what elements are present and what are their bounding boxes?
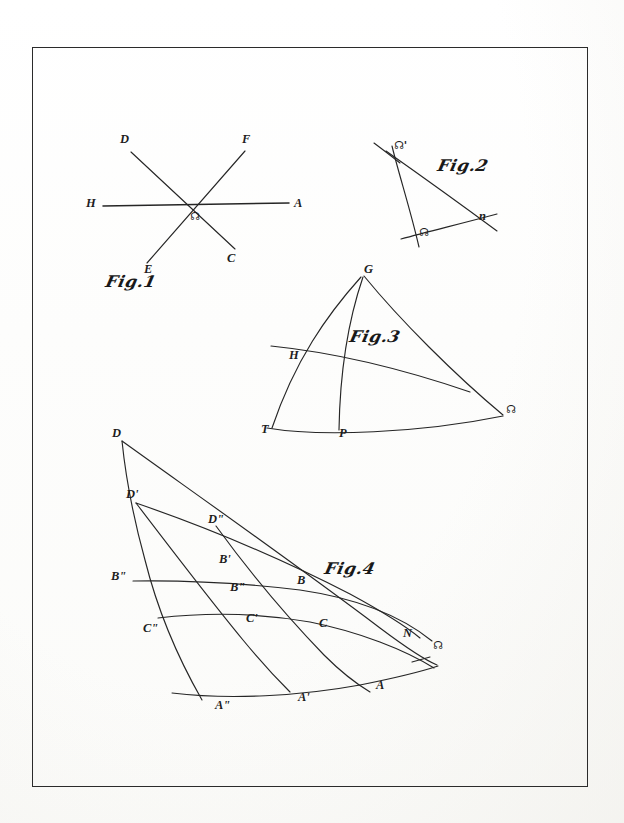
fig4-line-D-node (122, 441, 437, 665)
fig3-arcs (267, 276, 503, 433)
fig4-label-B-prime: B' (219, 553, 231, 566)
fig3-caption-text: Fig.3 (348, 327, 402, 346)
fig3-node-symbol-icon: ☊ (506, 404, 516, 415)
fig3-arc-transversal-H (271, 346, 470, 392)
fig3-label-G: G (364, 263, 373, 276)
fig2-caption-text: Fig.2 (436, 156, 490, 175)
fig4-caption: Fig.4 (323, 559, 370, 578)
fig2-node-symbol-icon: ☊ (419, 227, 429, 238)
fig4-label-A-double-prime: A" (215, 699, 230, 712)
fig4-label-C-prime: C' (246, 612, 258, 625)
fig1-caption-text: Fig.1 (104, 272, 158, 291)
fig2-caption: Fig.2 (436, 156, 483, 175)
fig1-label-F: F (242, 133, 250, 146)
fig3-label-H: H (289, 349, 299, 362)
figures-svg (0, 0, 624, 823)
fig1-line-HA (103, 203, 289, 206)
fig1-label-D: D (120, 133, 129, 146)
fig4-label-A: A (376, 679, 384, 692)
fig1-line-DC (131, 152, 235, 249)
fig4-label-D-prime: D' (126, 488, 139, 501)
fig4-meridian-Ddprime-A (216, 526, 370, 692)
fig4-label-D-double-prime: D" (208, 513, 224, 526)
fig4-arc-Bdprime-B (133, 581, 432, 641)
fig2-node-symbol-prime-icon: ☊' (394, 140, 407, 151)
fig1-label-C: C (227, 252, 235, 265)
fig1-caption: Fig.1 (104, 272, 151, 291)
fig4-label-B-double-prime: B" (111, 570, 126, 583)
fig1-lines (103, 151, 289, 263)
figure-plate: D F H A E C ☊ Fig.1 ☊' ☊ n Fig.2 G H T P… (0, 0, 624, 823)
fig1-node-symbol-icon: ☊ (190, 211, 200, 222)
fig1-label-H: H (86, 197, 96, 210)
fig4-arc-left-boundary (122, 441, 202, 700)
fig3-caption: Fig.3 (348, 327, 395, 346)
fig4-label-N: N (403, 627, 412, 640)
fig3-arc-base-T-S (267, 416, 503, 433)
fig4-arc-Cdprime-C (158, 615, 434, 668)
fig1-line-FE (147, 151, 245, 263)
fig4-node-symbol-icon: ☊ (433, 640, 443, 651)
fig4-label-C-double-prime: C" (143, 622, 158, 635)
fig4-caption-text: Fig.4 (323, 559, 377, 578)
figure-artwork: D F H A E C ☊ Fig.1 ☊' ☊ n Fig.2 G H T P… (0, 0, 624, 823)
fig4-label-A-prime: A' (298, 691, 310, 704)
fig2-label-n: n (479, 210, 486, 223)
fig3-label-T: T (261, 423, 269, 436)
fig4-label-C: C (319, 617, 327, 630)
fig3-arc-G-P (339, 277, 363, 430)
fig4-label-D: D (112, 427, 121, 440)
fig1-label-A: A (294, 197, 302, 210)
fig2-arc-Sprime-S (392, 146, 419, 247)
fig4-label-B: B (297, 574, 305, 587)
fig3-label-P: P (339, 427, 347, 440)
fig4-label-B-star: B" (230, 581, 245, 594)
fig4-arcs (122, 441, 438, 700)
